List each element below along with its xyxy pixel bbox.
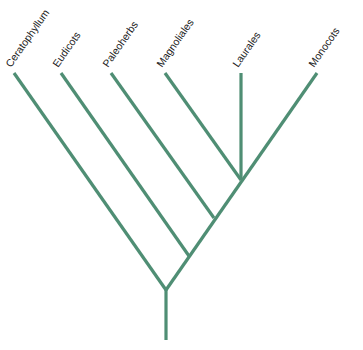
label-paleoherbs: Paleoherbs — [100, 19, 140, 69]
phylogenetic-tree: Ceratophyllum Eudicots Paleoherbs Magnol… — [0, 0, 363, 350]
branch-eudicots — [61, 73, 189, 256]
label-ceratophyllum: Ceratophyllum — [3, 7, 52, 70]
label-eudicots: Eudicots — [50, 29, 83, 69]
branch-paleoherbs — [111, 73, 214, 218]
label-laurales: Laurales — [230, 29, 263, 69]
label-magnoliales: Magnoliales — [154, 16, 196, 69]
branch-ceratophyllum — [14, 73, 166, 290]
label-monocots: Monocots — [306, 25, 342, 69]
